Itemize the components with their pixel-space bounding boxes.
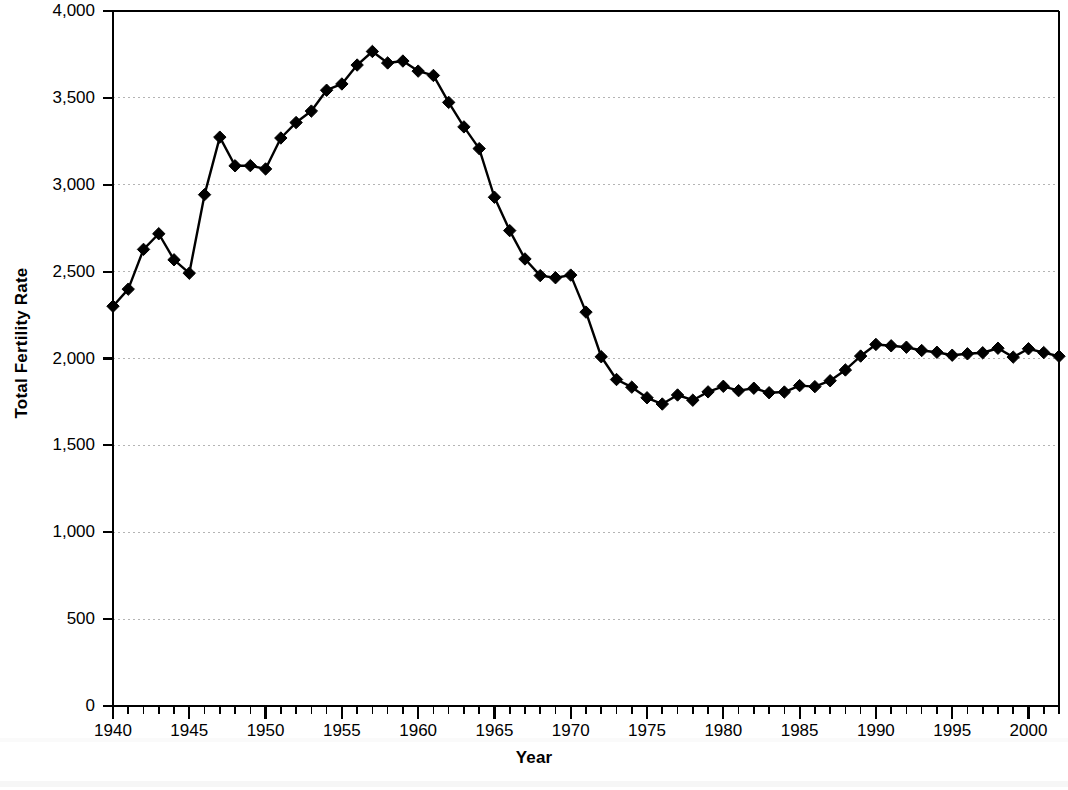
data-point-marker <box>565 269 577 281</box>
data-point-marker <box>931 346 943 358</box>
data-point-marker <box>504 224 516 236</box>
data-point-marker <box>1038 346 1050 358</box>
data-point-marker <box>259 163 271 175</box>
data-point-marker <box>549 272 561 284</box>
y-tick-label: 500 <box>15 610 95 627</box>
data-point-marker <box>427 69 439 81</box>
data-point-marker <box>1053 350 1065 362</box>
data-point-marker <box>1022 343 1034 355</box>
x-tick-label: 1970 <box>531 722 611 739</box>
x-tick-label: 1980 <box>683 722 763 739</box>
x-tick-label: 1975 <box>607 722 687 739</box>
data-point-marker <box>1007 351 1019 363</box>
x-axis-title: Year <box>0 748 1068 768</box>
y-tick-label: 2,000 <box>15 350 95 367</box>
x-tick-label: 1945 <box>149 722 229 739</box>
data-point-marker <box>656 398 668 410</box>
data-point-marker <box>702 386 714 398</box>
x-tick-label: 2000 <box>988 722 1068 739</box>
data-point-marker <box>763 387 775 399</box>
y-tick-label: 0 <box>15 697 95 714</box>
x-tick-label: 1955 <box>302 722 382 739</box>
data-point-marker <box>915 344 927 356</box>
y-tick-label: 2,500 <box>15 263 95 280</box>
data-point-marker <box>671 389 683 401</box>
data-point-marker <box>900 341 912 353</box>
data-point-marker <box>885 340 897 352</box>
x-tick-label: 1940 <box>73 722 153 739</box>
y-tick-label: 3,500 <box>15 89 95 106</box>
data-point-marker <box>732 384 744 396</box>
data-point-marker <box>229 160 241 172</box>
y-tick-label: 1,000 <box>15 523 95 540</box>
x-tick-label: 1950 <box>226 722 306 739</box>
x-tick-label: 1995 <box>912 722 992 739</box>
data-point-marker <box>687 394 699 406</box>
data-point-marker <box>778 386 790 398</box>
data-point-marker <box>244 159 256 171</box>
chart-plot-area <box>0 0 1068 790</box>
data-point-marker <box>488 191 500 203</box>
x-tick-label: 1965 <box>454 722 534 739</box>
data-point-marker <box>748 382 760 394</box>
y-tick-label: 4,000 <box>15 2 95 19</box>
data-point-marker <box>580 306 592 318</box>
data-point-marker <box>793 379 805 391</box>
y-tick-label: 1,500 <box>15 436 95 453</box>
x-tick-label: 1990 <box>836 722 916 739</box>
data-point-marker <box>977 347 989 359</box>
data-point-marker <box>809 380 821 392</box>
y-tick-label: 3,000 <box>15 176 95 193</box>
data-point-marker <box>717 380 729 392</box>
fertility-rate-chart-figure: Total Fertility Rate Year 05001,0001,500… <box>0 0 1068 790</box>
data-point-marker <box>412 65 424 77</box>
data-point-marker <box>397 55 409 67</box>
data-point-marker <box>198 188 210 200</box>
data-point-marker <box>946 349 958 361</box>
data-point-marker <box>992 342 1004 354</box>
x-tick-label: 1960 <box>378 722 458 739</box>
data-point-marker <box>214 131 226 143</box>
x-tick-label: 1985 <box>760 722 840 739</box>
